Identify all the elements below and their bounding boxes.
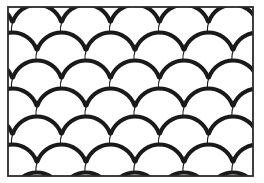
scale-tiling-group [0, 0, 264, 183]
pattern-canvas [0, 0, 264, 183]
fish-scale-pattern-svg [0, 0, 264, 183]
